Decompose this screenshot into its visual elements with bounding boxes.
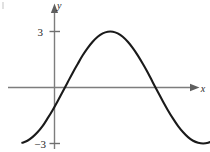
scan-artifact-speck: [2, 2, 4, 9]
graph-figure: 3 −3 x y: [0, 0, 210, 152]
graph-canvas: 3 −3 x y: [0, 0, 210, 152]
arrow-right-icon: [190, 84, 200, 91]
x-axis-label: x: [200, 83, 206, 94]
y-tick-label-positive: 3: [38, 26, 44, 38]
y-tick-label-negative: −3: [34, 138, 46, 150]
y-axis-label: y: [56, 0, 62, 11]
